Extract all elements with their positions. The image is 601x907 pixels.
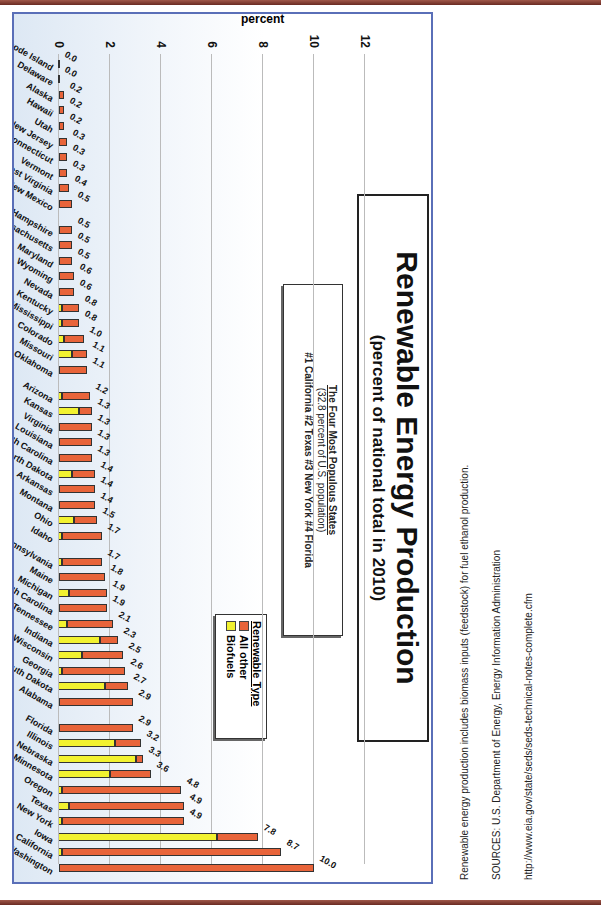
bar-illinois bbox=[59, 739, 141, 747]
bar-maine bbox=[59, 573, 105, 581]
value-label: 0.0 bbox=[63, 65, 79, 80]
bar-missouri bbox=[59, 350, 87, 358]
value-label: 4.9 bbox=[188, 791, 204, 806]
bar-new-mexico bbox=[59, 200, 72, 208]
bar-segment-biofuels bbox=[59, 817, 62, 825]
bar-north-carolina bbox=[59, 604, 107, 612]
value-label: 0.3 bbox=[71, 143, 87, 158]
bar-montana bbox=[59, 501, 95, 509]
bar-kentucky bbox=[59, 304, 79, 312]
bar-arkansas bbox=[59, 485, 95, 493]
note-biomass: Renewable energy production includes bio… bbox=[458, 20, 490, 880]
bar-arizona bbox=[59, 392, 90, 400]
bar-segment-biofuels bbox=[59, 304, 62, 312]
bar-hawaii bbox=[59, 106, 64, 114]
y-tick-label: 2 bbox=[103, 24, 117, 48]
bar-tennessee bbox=[59, 620, 113, 628]
value-label: 1.1 bbox=[91, 355, 107, 370]
bar-segment-biofuels bbox=[59, 786, 62, 794]
footnotes: Renewable energy production includes bio… bbox=[458, 20, 554, 880]
bar-segment-biofuels bbox=[59, 392, 62, 400]
bar-segment-all-other bbox=[59, 272, 74, 280]
bar-mississippi bbox=[59, 319, 79, 327]
value-label: 2.3 bbox=[122, 625, 138, 640]
value-label: 3.6 bbox=[155, 760, 171, 775]
bar-segment-all-other bbox=[100, 636, 118, 644]
bar-louisiana bbox=[59, 438, 92, 446]
value-label: 4.9 bbox=[188, 807, 204, 822]
gridline bbox=[262, 54, 263, 864]
bar-segment-all-other bbox=[62, 392, 90, 400]
bar-kansas bbox=[59, 407, 92, 415]
bar-segment-biofuels bbox=[59, 739, 115, 747]
bar-segment-all-other bbox=[62, 786, 182, 794]
bar-segment-biofuels bbox=[59, 770, 110, 778]
bar-segment-all-other bbox=[136, 755, 144, 763]
bar-segment-biofuels bbox=[59, 682, 105, 690]
bar-indiana bbox=[59, 636, 118, 644]
bar-rhode-island bbox=[58, 60, 59, 68]
bar-segment-all-other bbox=[58, 75, 60, 83]
gridline bbox=[160, 54, 161, 864]
bar-segment-all-other bbox=[59, 501, 95, 509]
bar-segment-biofuels bbox=[59, 636, 100, 644]
value-label: 2.9 bbox=[137, 687, 153, 702]
y-tick-label: 10 bbox=[307, 24, 321, 48]
bar-segment-all-other bbox=[62, 532, 103, 540]
value-label: 1.1 bbox=[91, 340, 107, 355]
bar-segment-all-other bbox=[62, 667, 126, 675]
value-label: 3.2 bbox=[145, 729, 161, 744]
bar-segment-all-other bbox=[62, 848, 281, 856]
bar-segment-all-other bbox=[72, 350, 87, 358]
value-label: 2.1 bbox=[117, 609, 133, 624]
bar-georgia bbox=[59, 667, 125, 675]
bar-washington bbox=[59, 864, 314, 872]
bar-segment-all-other bbox=[115, 739, 141, 747]
bar-segment-all-other bbox=[82, 651, 123, 659]
note-url: http://www.eia.gov/state/seds/seds-techn… bbox=[522, 20, 554, 880]
bar-segment-biofuels bbox=[59, 558, 62, 566]
value-label: 4.8 bbox=[185, 775, 201, 790]
note-sources: SOURCES: U.S. Department of Energy, Ener… bbox=[490, 20, 522, 880]
bar-california bbox=[59, 848, 281, 856]
bar-north-dakota bbox=[59, 470, 95, 478]
y-axis-label: percent bbox=[241, 12, 284, 26]
value-label: 2.7 bbox=[132, 672, 148, 687]
bar-segment-all-other bbox=[59, 122, 64, 130]
bar-segment-all-other bbox=[59, 438, 92, 446]
bar-segment-all-other bbox=[217, 833, 258, 841]
bar-massachusetts bbox=[59, 241, 72, 249]
y-tick-label: 6 bbox=[205, 24, 219, 48]
bar-segment-all-other bbox=[59, 573, 105, 581]
bar-oregon bbox=[59, 786, 181, 794]
bar-segment-biofuels bbox=[59, 620, 67, 628]
value-label: 0.2 bbox=[68, 111, 84, 126]
value-label: 1.4 bbox=[99, 475, 115, 490]
value-label: 1.9 bbox=[111, 578, 127, 593]
bar-segment-all-other bbox=[72, 470, 95, 478]
bar-west-virginia bbox=[59, 184, 69, 192]
bar-segment-all-other bbox=[69, 589, 107, 597]
value-label: 0.2 bbox=[68, 80, 84, 95]
bar-ohio bbox=[59, 516, 97, 524]
bar-segment-all-other bbox=[59, 864, 314, 872]
bar-segment-all-other bbox=[59, 200, 72, 208]
bar-segment-biofuels bbox=[59, 651, 82, 659]
bar-iowa bbox=[59, 833, 258, 841]
value-label: 0.3 bbox=[71, 158, 87, 173]
value-label: 1.0 bbox=[89, 324, 105, 339]
value-label: 0.5 bbox=[76, 231, 92, 246]
bar-delaware bbox=[58, 75, 59, 83]
bar-texas bbox=[59, 802, 184, 810]
value-label: 1.8 bbox=[109, 563, 125, 578]
value-label: 1.2 bbox=[94, 381, 110, 396]
bar-segment-all-other bbox=[62, 558, 103, 566]
value-label: 7.8 bbox=[262, 822, 278, 837]
bar-segment-all-other bbox=[59, 257, 72, 265]
bar-segment-all-other bbox=[62, 817, 184, 825]
bar-segment-biofuels bbox=[59, 350, 72, 358]
value-label: 2.6 bbox=[129, 656, 145, 671]
bar-segment-biofuels bbox=[59, 470, 72, 478]
bar-connecticut bbox=[59, 153, 67, 161]
bar-south-carolina bbox=[59, 454, 92, 462]
